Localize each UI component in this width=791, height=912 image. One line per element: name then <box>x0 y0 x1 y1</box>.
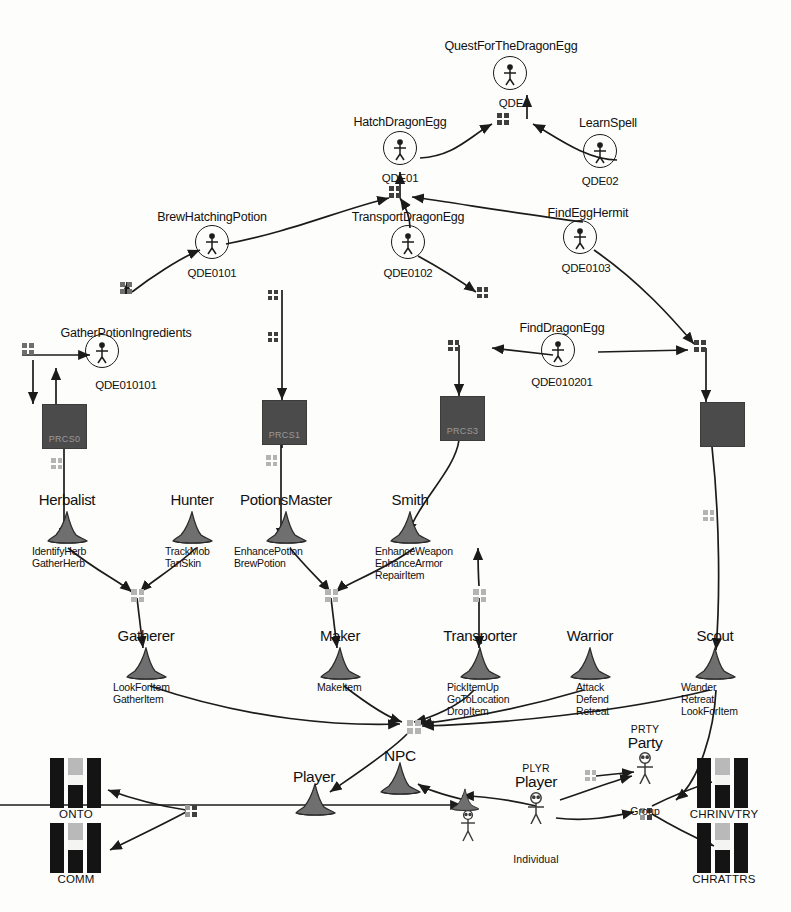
connector-node[interactable] <box>266 455 277 466</box>
wizard-hat-icon <box>567 647 613 681</box>
connector-node[interactable] <box>389 186 401 198</box>
connector-node[interactable] <box>120 282 132 294</box>
quest-node[interactable] <box>195 225 229 259</box>
role-action: LookForItem <box>681 706 738 718</box>
connector-node[interactable] <box>585 770 596 781</box>
process-node[interactable]: PRCS0 <box>42 404 87 449</box>
entity-label: CHRINVTRY <box>690 808 759 820</box>
person-subtitle: Individual <box>513 854 558 865</box>
stick-figure-icon <box>523 790 549 824</box>
process-label: PRCS1 <box>263 430 306 440</box>
role-actions: PickItemUpGoToLocationDropItem <box>447 682 509 717</box>
quest-id: QDE02 <box>582 175 619 187</box>
entity-node[interactable] <box>697 758 751 808</box>
quest-title: HatchDragonEgg <box>353 116 446 129</box>
role-node[interactable] <box>169 511 215 545</box>
connector-node[interactable] <box>22 343 34 355</box>
wizard-hat-icon <box>692 647 738 681</box>
role-node[interactable] <box>567 647 613 681</box>
process-node[interactable] <box>700 402 745 447</box>
connector-node[interactable] <box>694 340 706 352</box>
actor-figure-icon <box>455 808 481 842</box>
role-action: EnhanceArmor <box>375 558 453 570</box>
role-name: Warrior <box>567 628 614 644</box>
quest-node[interactable] <box>563 220 597 254</box>
connector-node[interactable] <box>407 720 421 734</box>
role-actions: EnhanceWeaponEnhanceArmorRepairItem <box>375 546 453 581</box>
entity-icon <box>50 758 104 808</box>
entity-node[interactable] <box>50 823 104 873</box>
quest-node[interactable] <box>583 134 617 168</box>
connector-node[interactable] <box>497 113 509 125</box>
connector-node[interactable] <box>131 589 144 602</box>
role-name: Smith <box>392 492 429 508</box>
quest-title: LearnSpell <box>579 117 637 130</box>
actor-name: NPC <box>384 748 416 764</box>
entity-node[interactable] <box>50 758 104 808</box>
entity-icon <box>697 758 751 808</box>
role-action: Wander <box>681 682 738 694</box>
wizard-hat-icon <box>317 647 363 681</box>
quest-node[interactable] <box>541 333 575 367</box>
role-action: Retreat <box>576 706 609 718</box>
actor-node[interactable] <box>377 762 423 796</box>
connector-node[interactable] <box>268 290 278 300</box>
role-node[interactable] <box>263 511 309 545</box>
role-actions: IdentifyHerbGatherHerb <box>32 546 86 570</box>
role-node[interactable] <box>387 511 433 545</box>
role-actions: AttackDefendRetreat <box>576 682 609 717</box>
person-node[interactable] <box>632 750 658 784</box>
connector-node[interactable] <box>325 589 338 602</box>
entity-node[interactable] <box>697 823 751 873</box>
quest-title: TransportDragonEgg <box>352 211 465 224</box>
connector-node[interactable] <box>268 332 278 342</box>
quest-node[interactable] <box>493 56 527 90</box>
role-action: LookForItem <box>113 682 170 694</box>
wizard-hat-icon <box>169 511 215 545</box>
quest-id: QDE010101 <box>95 379 157 391</box>
role-action: IdentifyHerb <box>32 546 86 558</box>
role-actions: MakeItem <box>317 682 362 694</box>
role-action: EnhanceWeapon <box>375 546 453 558</box>
entity-label: ONTO <box>59 808 93 820</box>
person-name: Party <box>628 735 663 751</box>
role-name: Herbalist <box>39 492 96 508</box>
role-action: Defend <box>576 694 609 706</box>
quest-title: FindEggHermit <box>548 207 629 220</box>
connector-node[interactable] <box>473 589 486 602</box>
role-actions: EnhancePotionBrewPotion <box>234 546 303 570</box>
entity-icon <box>50 823 104 873</box>
diagram-canvas: QuestForTheDragonEggQDEHatchDragonEggQDE… <box>0 0 791 912</box>
role-name: Scout <box>697 628 734 644</box>
quest-id: QDE01 <box>382 172 419 184</box>
role-node[interactable] <box>692 647 738 681</box>
role-node[interactable] <box>317 647 363 681</box>
connector-node[interactable] <box>703 510 714 521</box>
role-action: GatherItem <box>113 694 170 706</box>
wizard-hat-icon <box>377 762 423 796</box>
wizard-hat-icon <box>387 511 433 545</box>
quest-title: GatherPotionIngredients <box>61 327 192 340</box>
stick-figure-icon <box>632 750 658 784</box>
process-node[interactable]: PRCS3 <box>440 396 485 441</box>
person-node[interactable] <box>523 790 549 824</box>
role-node[interactable] <box>123 647 169 681</box>
actor-node[interactable] <box>292 783 338 817</box>
role-name: Gatherer <box>118 628 175 644</box>
connector-node[interactable] <box>477 287 488 298</box>
connector-node[interactable] <box>448 340 459 351</box>
role-action: Attack <box>576 682 609 694</box>
connector-node[interactable] <box>51 458 62 469</box>
role-action: EnhancePotion <box>234 546 303 558</box>
wizard-hat-icon <box>123 647 169 681</box>
process-node[interactable]: PRCS1 <box>262 400 307 445</box>
role-action: BrewPotion <box>234 558 303 570</box>
quest-node[interactable] <box>391 225 425 259</box>
role-node[interactable] <box>44 511 90 545</box>
role-node[interactable] <box>457 647 503 681</box>
entity-icon <box>697 823 751 873</box>
connector-node[interactable] <box>185 805 197 817</box>
person-name: Player <box>515 774 557 790</box>
quest-node[interactable] <box>383 131 417 165</box>
quest-id: QDE0102 <box>383 267 432 279</box>
